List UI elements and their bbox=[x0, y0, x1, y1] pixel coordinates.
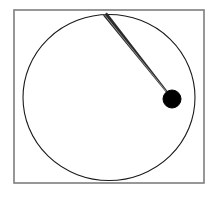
canvas-background bbox=[0, 0, 220, 198]
figure-container: Pendulum bob on circular path bbox=[0, 0, 220, 198]
pendulum-bob bbox=[163, 90, 181, 108]
pendulum-diagram-svg bbox=[0, 0, 220, 198]
